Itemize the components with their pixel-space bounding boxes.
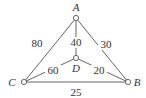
- node-b: [125, 79, 130, 84]
- edge-weight-a-d: 40: [71, 36, 83, 48]
- edge-weight-a-b: 30: [101, 38, 113, 50]
- node-label-b: B: [134, 76, 141, 88]
- node-label-a: A: [72, 1, 80, 13]
- graph-diagram: 80 30 40 60 20 25 A B C D: [0, 0, 146, 98]
- edge-weight-c-d: 60: [48, 64, 60, 76]
- node-c: [21, 79, 26, 84]
- node-label-d: D: [71, 62, 80, 74]
- edge-weight-a-c: 80: [32, 37, 44, 49]
- edge-weight-d-b: 20: [94, 64, 106, 76]
- edge-weight-c-b: 25: [71, 86, 83, 98]
- node-a: [73, 15, 78, 20]
- node-label-c: C: [8, 76, 16, 88]
- node-d: [73, 55, 78, 60]
